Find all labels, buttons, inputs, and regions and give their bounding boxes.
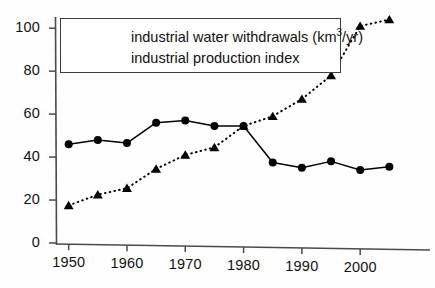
legend-item-industrial-production-index: industrial production index [69,48,299,68]
data-point-marker [65,140,73,148]
x-axis-tick-label: 1980 [220,257,268,273]
legend-label-water-withdrawals: industrial water withdrawals (km3/yr) [131,30,363,45]
y-axis-tick-label: 60 [0,105,40,121]
chart-container: 020406080100 195019601970198019902000 in… [0,0,435,288]
data-point-marker [327,157,335,165]
x-axis-tick-label: 2000 [336,259,384,275]
data-point-marker [268,112,278,120]
y-axis-tick-label: 40 [0,148,40,164]
data-point-marker [64,201,74,209]
data-point-marker [122,184,132,192]
y-axis-line [56,17,57,245]
data-point-marker [385,163,393,171]
legend-item-industrial-water-withdrawals: industrial water withdrawals (km3/yr) [69,27,363,47]
legend-marker-circle-icon [69,28,131,46]
data-point-marker [151,164,161,172]
data-point-marker [180,150,190,158]
y-axis-tick-label: 100 [0,19,40,35]
x-axis-tick-label: 1990 [278,258,326,274]
data-point-marker [384,15,394,23]
data-point-marker [269,158,277,166]
x-axis-tick-label: 1950 [45,254,93,270]
y-axis-tick-label: 20 [0,191,40,207]
data-point-marker [210,122,218,130]
data-point-marker [94,136,102,144]
y-axis-tick-label: 0 [0,234,40,250]
legend-label-production-index: industrial production index [131,51,299,66]
data-point-marker [152,119,160,127]
legend-label-water-withdrawals-main: industrial water withdrawals (km [131,29,336,45]
legend-marker-triangle-icon [69,49,131,67]
y-axis-tick-label: 80 [0,62,40,78]
chart-legend: industrial water withdrawals (km3/yr) in… [60,18,341,73]
x-axis-tick-label: 1970 [161,256,209,272]
data-point-marker [181,117,189,125]
legend-label-water-withdrawals-tail: /yr) [342,29,363,45]
x-axis-tick-label: 1960 [103,255,151,271]
series-line-0 [69,121,390,170]
data-point-marker [123,139,131,147]
data-point-marker [298,164,306,172]
data-point-marker [356,166,364,174]
